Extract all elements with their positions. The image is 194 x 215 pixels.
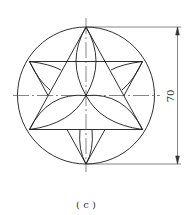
right-petal-arc [111, 62, 143, 71]
geometric-construction-drawing: 70 [0, 0, 194, 215]
lower-right-arc-upper [86, 95, 143, 129]
dimension-value: 70 [165, 90, 176, 103]
lower-left-arc-upper [30, 95, 87, 129]
arrow-top-icon [176, 27, 180, 35]
figure-caption: ( c ) [0, 199, 172, 210]
arrow-bottom-icon [176, 156, 180, 164]
lower-right-arc-lower [86, 96, 143, 130]
left-petal-arc-2 [30, 62, 51, 91]
left-petal-arc [30, 62, 62, 71]
right-petal-arc-2 [122, 62, 143, 91]
lower-left-arc-lower [30, 96, 87, 130]
